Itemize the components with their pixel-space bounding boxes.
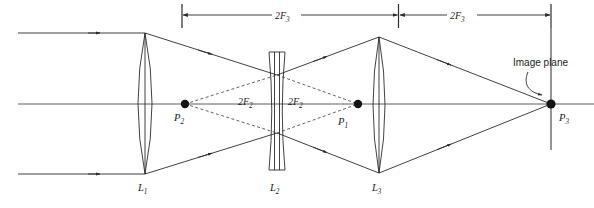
image-plane-annotation-group: Image plane: [513, 57, 568, 95]
ray-L2-top-to-L3: [277, 37, 379, 75]
ray-L1-bottom-to-L2-arrow: [198, 153, 212, 157]
point-P2-dot: [181, 100, 189, 108]
ray-L2-top-to-L3-arrow: [313, 56, 327, 61]
point-P1-label: P1: [337, 116, 348, 130]
dimension-bar-group: 2F3 2F3: [182, 4, 551, 28]
incoming-rays-group: [18, 33, 145, 174]
ray-L1-top-to-L2-arrow: [198, 50, 212, 55]
dimension-right: 2F3: [400, 10, 550, 24]
ray-L2-bottom-to-L3: [277, 133, 379, 173]
lens-L2-body: [269, 52, 285, 170]
ray-L3-top-to-P3: [379, 37, 551, 104]
image-plane-leader-arrow: [526, 72, 542, 95]
optical-ray-diagram-figure: 2F3 2F3: [0, 0, 594, 208]
point-P1-dot: [354, 100, 362, 108]
ray-L3-bottom-to-P3: [379, 104, 551, 173]
image-plane-label: Image plane: [513, 57, 568, 68]
lens-L1-group: L1: [137, 33, 152, 196]
interior-dimension-label-left: 2F2: [238, 96, 253, 110]
ray-L2-bottom-to-L3-arrow: [313, 147, 327, 153]
dimension-label-left: 2F3: [275, 10, 290, 24]
ray-diagram-canvas: 2F3 2F3: [0, 0, 594, 208]
rays-L1-to-L2-group: [145, 33, 277, 174]
lens-L2-label: L2: [269, 182, 280, 196]
dimension-label-right: 2F3: [450, 10, 465, 24]
ray-L3-bottom-to-P3-arrow: [437, 144, 451, 150]
dimension-left: 2F3: [183, 10, 398, 24]
point-P3-dot: [546, 99, 555, 108]
lens-L1-label: L1: [137, 182, 147, 196]
lens-L3-label: L3: [371, 182, 382, 196]
dashed-P2-to-L2-lower: [185, 104, 277, 133]
interior-dimension-label-right: 2F2: [288, 96, 303, 110]
point-P3-label: P3: [558, 112, 569, 126]
ray-L3-top-to-P3-arrow: [437, 60, 451, 66]
point-P2-label: P2: [173, 112, 184, 126]
dashed-P2-to-L2-upper: [185, 75, 277, 104]
